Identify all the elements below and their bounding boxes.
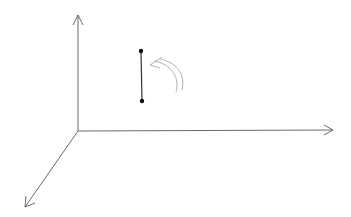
y-axis [73,15,83,131]
line-segment [139,49,144,103]
axes-diagram [0,0,351,217]
segment-endpoint-top [139,49,143,53]
x-axis [78,125,333,135]
z-axis [25,131,78,207]
segment-endpoint-bottom [140,99,144,103]
rotation-arrow-icon [150,57,183,92]
